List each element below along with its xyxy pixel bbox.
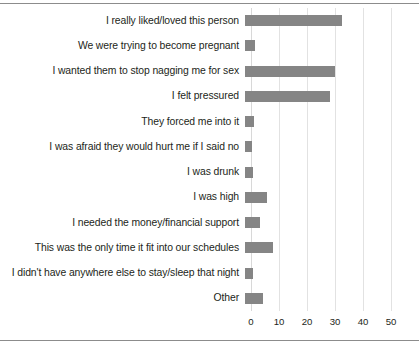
bar-row: I really liked/loved this person [0,8,419,33]
bottom-divider-rule [0,340,419,341]
x-tick-label: 20 [302,316,313,327]
category-label: They forced me into it [0,116,245,128]
bar [245,167,253,178]
bar [245,91,330,102]
bar [245,217,260,228]
category-label: We were trying to become pregnant [0,40,245,52]
bar-chart: I really liked/loved this personWe were … [0,8,419,336]
category-label: I felt pressured [0,90,245,102]
bar [245,293,263,304]
x-tick-label: 30 [330,316,341,327]
bar-cell [245,134,419,159]
bar-cell [245,59,419,84]
top-divider-rule [0,3,419,4]
bar-cell [245,109,419,134]
bar [245,192,267,203]
x-tick-label: 40 [358,316,369,327]
bar-row: I didn't have anywhere else to stay/slee… [0,261,419,286]
bar-cell [245,261,419,286]
bar-row: I was high [0,185,419,210]
bar-row: I needed the money/financial support [0,210,419,235]
category-label: I wanted them to stop nagging me for sex [0,65,245,77]
bar-cell [245,185,419,210]
bar-row: I wanted them to stop nagging me for sex [0,59,419,84]
category-label: I was drunk [0,166,245,178]
bar-cell [245,210,419,235]
category-label: I was high [0,191,245,203]
bar [245,242,273,253]
bar-cell [245,160,419,185]
category-label: I didn't have anywhere else to stay/slee… [0,267,245,279]
category-label: This was the only time it fit into our s… [0,242,245,254]
x-axis: 01020304050 [251,311,401,331]
bar-cell [245,8,419,33]
x-tick-label: 0 [248,316,253,327]
bar-row: This was the only time it fit into our s… [0,235,419,260]
bar [245,66,335,77]
category-label: Other [0,292,245,304]
bar-rows: I really liked/loved this personWe were … [0,8,419,311]
category-label: I was afraid they would hurt me if I sai… [0,141,245,153]
bar [245,141,252,152]
x-tick-label: 10 [274,316,285,327]
bar [245,268,253,279]
bar-row: I was drunk [0,160,419,185]
bar-cell [245,33,419,58]
x-tick-label: 50 [386,316,397,327]
bar-row: I was afraid they would hurt me if I sai… [0,134,419,159]
category-label: I really liked/loved this person [0,15,245,27]
chart-page: I really liked/loved this personWe were … [0,0,419,349]
bar-row: We were trying to become pregnant [0,33,419,58]
bar [245,15,342,26]
bar [245,40,255,51]
bar-row: I felt pressured [0,84,419,109]
bar-row: Other [0,286,419,311]
category-label: I needed the money/financial support [0,217,245,229]
bar-cell [245,286,419,311]
bar-cell [245,84,419,109]
bar-row: They forced me into it [0,109,419,134]
bar [245,116,254,127]
bar-cell [245,235,419,260]
